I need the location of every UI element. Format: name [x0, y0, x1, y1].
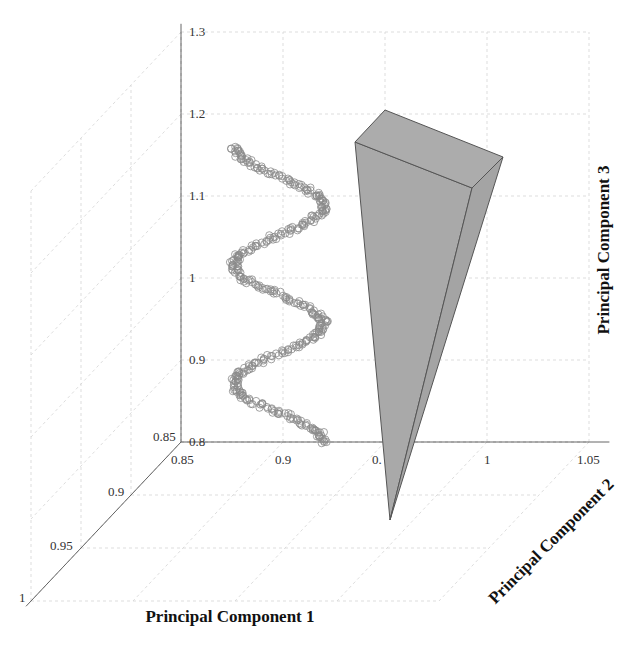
pc1-tick-label: 1	[19, 590, 26, 605]
left-wall-gridline	[31, 114, 181, 273]
pc1-tick-label: 0.95	[50, 538, 73, 553]
z-tick-label: 1.2	[189, 106, 205, 121]
left-wall-gridline	[31, 196, 181, 355]
helix-scatter-series	[226, 143, 331, 447]
pc2-tick-label: 1	[484, 452, 491, 467]
left-wall-gridline	[31, 278, 181, 437]
pc1-tick-label: 0.85	[153, 429, 176, 444]
pca-3d-plot: 0.8 0.9 1 1.1 1.2 1.3 0.85 0.9 0. 1 1.05…	[0, 0, 638, 655]
pc2-tick-label: 0.9	[275, 452, 291, 467]
z-tick-label: 1.3	[189, 24, 205, 39]
pc2-tick-label: 0.	[372, 452, 382, 467]
pc1-axis-title: Principal Component 1	[145, 607, 314, 626]
z-tick-label: 1	[189, 270, 196, 285]
floor-gridline	[337, 442, 487, 601]
z-tick-label: 0.9	[189, 352, 205, 367]
left-wall-gridline	[31, 32, 181, 191]
z-tick-label: 1.1	[189, 188, 205, 203]
pc2-tick-label: 1.05	[577, 452, 600, 467]
z-tick-label: 0.8	[189, 434, 205, 449]
pc2-axis-title: Principal Component 2	[485, 475, 618, 608]
pc1-axis-ticks: 0.85 0.9 0.95 1	[19, 429, 176, 605]
pc1-axis-line	[26, 442, 181, 606]
z-axis-ticks: 0.8 0.9 1 1.1 1.2 1.3	[189, 24, 205, 449]
pc3-axis-title: Principal Component 3	[594, 165, 613, 334]
pc2-tick-label: 0.85	[171, 452, 194, 467]
pc1-tick-label: 0.9	[108, 484, 124, 499]
floor-gridline	[235, 442, 385, 601]
floor-gridline	[133, 442, 283, 601]
